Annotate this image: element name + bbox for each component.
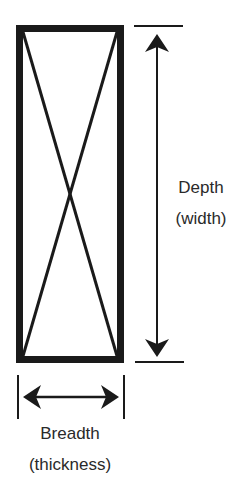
- breadth-label-line1: Breadth: [12, 424, 128, 444]
- depth-label-line1: Depth: [162, 178, 240, 198]
- breadth-dimension: [18, 375, 124, 419]
- depth-label: Depth (width): [162, 178, 240, 229]
- breadth-label-line2: (thickness): [12, 455, 128, 475]
- breadth-label: Breadth (thickness): [12, 424, 128, 475]
- cross-section: [20, 29, 121, 360]
- depth-label-line2: (width): [162, 209, 240, 229]
